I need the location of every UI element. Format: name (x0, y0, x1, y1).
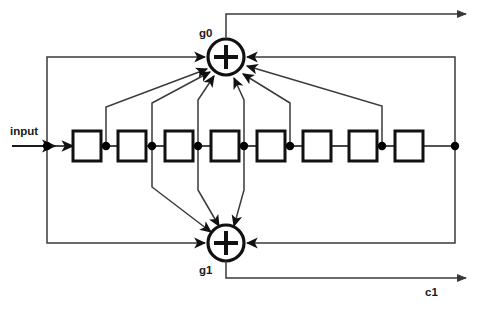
register-box-8 (395, 131, 423, 161)
adder-g1[interactable] (208, 225, 244, 261)
register-box-6 (303, 131, 331, 161)
node-input (43, 142, 51, 150)
node-output (451, 142, 459, 150)
label-g1: g1 (199, 264, 213, 276)
register-box-3 (165, 131, 193, 161)
encoder-diagram: input g0 g1 c1 (0, 0, 487, 316)
node-tap-3 (194, 142, 202, 150)
register-box-2 (118, 131, 146, 161)
node-tap-5 (286, 142, 294, 150)
node-tap-4 (240, 142, 248, 150)
node-tap-7 (378, 142, 386, 150)
diagram-canvas: input g0 g1 c1 (0, 0, 487, 316)
register-box-1 (73, 131, 101, 161)
output-c0-line (226, 14, 466, 39)
label-input: input (10, 125, 38, 137)
register-box-7 (349, 131, 377, 161)
output-c1-line (226, 261, 466, 278)
node-tap-2 (148, 142, 156, 150)
label-g0: g0 (199, 27, 212, 39)
adder-g0[interactable] (208, 39, 244, 75)
node-tap-1 (102, 142, 110, 150)
register-box-5 (257, 131, 285, 161)
register-box-4 (211, 131, 239, 161)
label-c1: c1 (425, 286, 438, 298)
